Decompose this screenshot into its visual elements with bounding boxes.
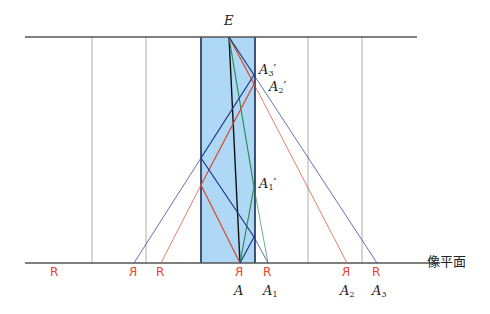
a1-text: A: [263, 283, 272, 298]
a-text: A: [234, 283, 243, 298]
label-A3: A3: [372, 284, 386, 299]
a3p-text: A: [259, 62, 268, 77]
object-glyph: R: [263, 266, 271, 278]
label-A2: A2: [340, 284, 354, 299]
object-glyph: R: [50, 266, 58, 278]
a1-sub: 1: [272, 290, 277, 299]
glyph-text: R: [342, 265, 350, 279]
a3-text: A: [372, 283, 381, 298]
object-glyph: R: [156, 266, 164, 278]
glyph-text: R: [156, 265, 164, 279]
a2-text: A: [340, 283, 349, 298]
a3p-prime: ′: [273, 63, 276, 77]
label-A1: A1: [263, 284, 277, 299]
a1p-text: A: [259, 176, 268, 191]
glyph-text: R: [263, 265, 271, 279]
a2-sub: 2: [349, 290, 354, 299]
a2p-text: A: [269, 79, 278, 94]
glyph-text: R: [372, 265, 380, 279]
object-glyph-mirrored: R: [235, 266, 243, 278]
object-glyph-mirrored: R: [342, 266, 350, 278]
object-glyph-mirrored: R: [129, 266, 137, 278]
image-plane-label: 像平面: [427, 255, 466, 268]
glyph-text: R: [129, 265, 137, 279]
eye-label: E: [224, 14, 234, 27]
eye-text: E: [224, 13, 234, 28]
label-A1-prime: A1′: [259, 177, 276, 192]
image-plane-text: 像平面: [427, 254, 466, 269]
a2p-prime: ′: [283, 80, 286, 94]
glyph-text: R: [235, 265, 243, 279]
diagram-canvas: [0, 0, 490, 314]
label-A3-prime: A3′: [259, 63, 276, 78]
object-glyph: R: [372, 266, 380, 278]
reflection-diagram: E A3′ A2′ A1′ R R R R R R R A A1 A2 A3 像…: [0, 0, 490, 314]
glyph-text: R: [50, 265, 58, 279]
a3-sub: 3: [381, 290, 386, 299]
label-A: A: [234, 284, 243, 297]
a1p-prime: ′: [273, 177, 276, 191]
label-A2-prime: A2′: [269, 80, 286, 95]
